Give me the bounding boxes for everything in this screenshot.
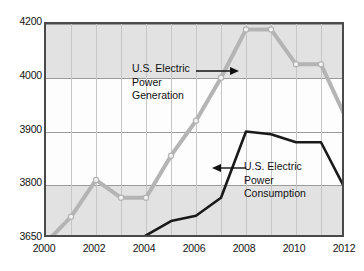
- series-marker-generation: [318, 62, 323, 67]
- series-marker-generation: [193, 118, 198, 123]
- x-axis-tick-label: 2004: [124, 242, 164, 254]
- annotation-consumption-line-3: Consumption: [244, 187, 306, 201]
- x-axis-tick-label: 2008: [224, 242, 264, 254]
- x-axis-tick-label: 2002: [74, 242, 114, 254]
- annotation-consumption-line-1: U.S. Electric: [244, 160, 306, 174]
- data-series-layer: [46, 24, 344, 237]
- y-axis-tick-label: 3900: [2, 123, 42, 135]
- annotation-generation-line-2: Power: [132, 76, 190, 90]
- annotation-consumption-line-2: Power: [244, 174, 306, 188]
- x-axis-tick-label: 2006: [174, 242, 214, 254]
- series-line-generation: [46, 29, 344, 237]
- y-axis-tick-label: 4200: [2, 15, 42, 27]
- chart-container: 36503800390040004200 2000200220042006200…: [0, 0, 364, 271]
- plot-area: [44, 22, 344, 237]
- series-marker-generation: [268, 27, 273, 32]
- annotation-generation-arrow-icon: [196, 66, 240, 76]
- x-axis-tick-label: 2010: [274, 242, 314, 254]
- annotation-consumption-arrow-icon: [212, 163, 246, 173]
- annotation-generation: U.S. Electric Power Generation: [132, 62, 190, 103]
- annotation-generation-line-1: U.S. Electric: [132, 62, 190, 76]
- series-marker-generation: [118, 195, 123, 200]
- series-marker-generation: [168, 153, 173, 158]
- y-axis-tick-label: 3650: [2, 230, 42, 242]
- series-marker-generation: [93, 177, 98, 182]
- x-axis-tick-label: 2012: [324, 242, 364, 254]
- series-marker-generation: [243, 27, 248, 32]
- series-marker-generation: [143, 195, 148, 200]
- series-markers-generation: [46, 27, 344, 237]
- x-axis-tick-label: 2000: [24, 242, 64, 254]
- y-axis-tick-label: 3800: [2, 176, 42, 188]
- annotation-generation-line-3: Generation: [132, 89, 190, 103]
- y-axis-labels: 36503800390040004200: [0, 0, 42, 271]
- series-marker-generation: [293, 62, 298, 67]
- series-marker-generation: [68, 214, 73, 219]
- annotation-consumption: U.S. Electric Power Consumption: [244, 160, 306, 201]
- y-axis-tick-label: 4000: [2, 69, 42, 81]
- series-marker-generation: [343, 115, 344, 120]
